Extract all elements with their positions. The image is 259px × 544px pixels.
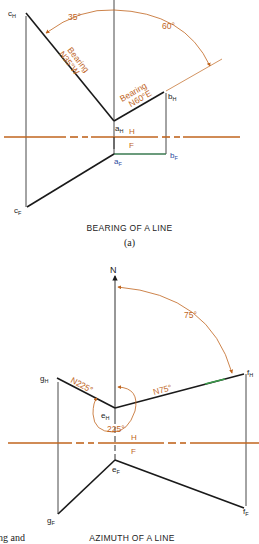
label-fH: fH	[247, 368, 253, 378]
label-eH: eH	[101, 411, 109, 421]
fold-label-H-b: H	[131, 433, 137, 442]
azimuth-N75: N75°	[152, 382, 173, 397]
angle-75: 75°	[184, 310, 197, 320]
diagram-canvas: cH aH bH aF bF cF 35° 60° Bearing N35°W …	[0, 0, 259, 544]
bearing-N35W: Bearing N35°W	[57, 43, 91, 80]
label-cH: cH	[8, 9, 16, 19]
direction-extension	[166, 59, 222, 91]
figure-azimuth	[8, 276, 259, 514]
label-bF: bF	[170, 151, 178, 161]
label-gH: gH	[40, 374, 48, 384]
north-label: N	[110, 265, 117, 275]
fold-label-F: F	[129, 141, 134, 150]
bearing-N60E: Bearing N60°E	[118, 80, 153, 111]
angle-35: 35°	[68, 12, 81, 22]
azimuth-N225: N225°	[69, 375, 95, 395]
angle-60: 60°	[162, 21, 175, 31]
label-cF: cF	[14, 206, 22, 216]
angle-225: 225°	[107, 424, 125, 434]
label-aF: aF	[114, 157, 122, 167]
margin-text: ng and	[0, 532, 25, 543]
caption-bearing: BEARING OF A LINE	[87, 223, 173, 233]
fold-label-H: H	[129, 127, 135, 136]
caption-sublabel-a: (a)	[124, 237, 135, 249]
label-gF: gF	[47, 516, 55, 526]
arc-75	[118, 287, 232, 373]
line-aF-cF	[27, 154, 114, 207]
arc-60	[114, 10, 210, 66]
line-eF-fF	[115, 460, 244, 508]
line-eF-gF	[58, 460, 115, 514]
fold-label-F-b: F	[131, 447, 136, 456]
label-fF: fF	[243, 507, 249, 517]
caption-azimuth: AZIMUTH OF A LINE	[89, 533, 174, 543]
label-eF: eF	[112, 465, 120, 475]
label-aH: aH	[115, 124, 123, 134]
label-bH: bH	[168, 92, 176, 102]
